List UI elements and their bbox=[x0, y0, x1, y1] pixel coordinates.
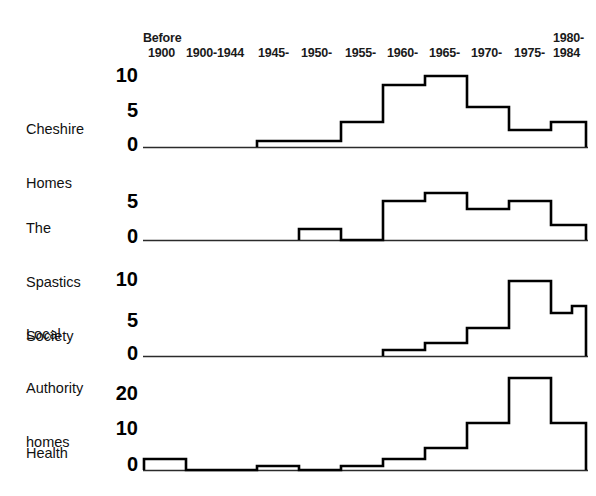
panel-local-authority-homes: Local Authority homes 10 5 0 bbox=[0, 265, 596, 370]
period-label-8: 1975- bbox=[514, 47, 545, 60]
plot-spastics-society bbox=[0, 165, 596, 265]
step-histogram-outline bbox=[257, 76, 586, 147]
step-histogram-outline bbox=[144, 378, 586, 470]
period-label-3: 1950- bbox=[301, 47, 332, 60]
period-label-0-line1: Before bbox=[143, 32, 181, 45]
plot-cheshire-homes bbox=[0, 62, 596, 162]
plot-local-authority-homes bbox=[0, 265, 596, 370]
step-histogram-outline bbox=[299, 193, 586, 240]
panel-health-service-units: Health Service units 20 10 0 bbox=[0, 370, 596, 492]
plot-health-service-units bbox=[0, 370, 596, 492]
period-label-9-line2: 1984 bbox=[553, 47, 580, 60]
panel-cheshire-homes: Cheshire Homes 10 5 0 bbox=[0, 62, 596, 162]
period-label-7: 1970- bbox=[471, 47, 502, 60]
period-label-6: 1965- bbox=[429, 47, 460, 60]
period-label-0-line2: 1900 bbox=[148, 47, 175, 60]
period-label-1: 1900-1944 bbox=[186, 47, 244, 60]
panel-spastics-society: The Spastics Society 5 0 bbox=[0, 165, 596, 265]
period-label-9-line1: 1980- bbox=[553, 32, 584, 45]
period-label-2: 1945- bbox=[258, 47, 289, 60]
period-label-4: 1955- bbox=[345, 47, 376, 60]
step-histogram-outline bbox=[383, 281, 586, 356]
histogram-figure: Before 1900 1900-1944 1945- 1950- 1955- … bbox=[0, 0, 596, 496]
period-label-5: 1960- bbox=[387, 47, 418, 60]
